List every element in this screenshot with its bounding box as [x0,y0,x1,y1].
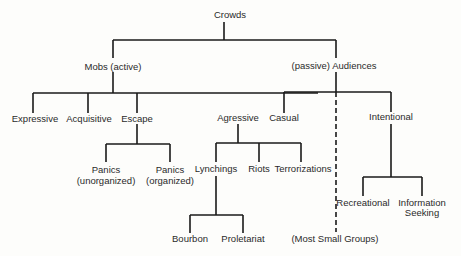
node-information-seeking: InformationSeeking [398,197,446,218]
node-panics-organized-line2: (organized) [146,175,194,186]
node-riots: Riots [248,163,270,174]
node-mobs: Mobs (active) [84,61,141,72]
node-casual: Casual [269,112,299,123]
node-acquisitive: Acquisitive [66,113,111,124]
node-terrorizations: Terrorizations [274,163,331,174]
node-crowds: Crowds [214,9,246,20]
node-escape: Escape [121,113,153,124]
node-panics-organized-line1: Panics [156,164,185,175]
node-panics-organized: Panics(organized) [146,164,194,186]
node-bourbon: Bourbon [172,233,208,244]
node-intentional: Intentional [369,111,413,122]
node-audiences: (passive) Audiences [291,60,376,71]
node-expressive: Expressive [12,113,58,124]
node-panics-unorganized-line2: (unorganized) [77,175,136,186]
diagram-labels: Crowds Mobs (active) (passive) Audiences… [12,9,446,244]
node-panics-unorganized-line1: Panics [92,164,121,175]
node-lynchings: Lynchings [195,163,238,174]
node-information-seeking-line2: Seeking [405,207,439,218]
node-panics-unorganized: Panics(unorganized) [77,164,136,186]
node-agressive: Agressive [217,112,259,123]
node-recreational: Recreational [336,197,389,208]
node-proletariat: Proletariat [221,233,265,244]
node-most-small-groups: (Most Small Groups) [291,233,378,244]
crowds-taxonomy-diagram: Crowds Mobs (active) (passive) Audiences… [0,0,461,256]
